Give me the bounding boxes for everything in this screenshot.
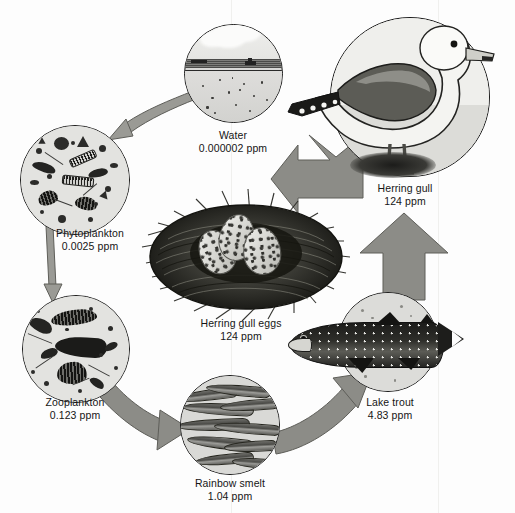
- label-zooplankton-value: 0.123 ppm: [10, 409, 140, 422]
- label-zooplankton: Zooplankton 0.123 ppm: [10, 396, 140, 421]
- arrow-lake-trout-to-herring-gull: [360, 213, 448, 300]
- phytoplankton-circle-icon: [20, 125, 130, 235]
- label-water-value: 0.000002 ppm: [168, 142, 298, 155]
- label-zooplankton-name: Zooplankton: [10, 396, 140, 409]
- rainbow-smelt-circle-icon: [180, 375, 280, 475]
- label-rainbow-smelt: Rainbow smelt 1.04 ppm: [165, 477, 295, 502]
- label-lake-trout: Lake trout 4.83 ppm: [330, 396, 450, 421]
- gull-rock-icon: [350, 152, 436, 178]
- label-herring-gull-eggs-value: 124 ppm: [176, 330, 306, 343]
- label-rainbow-smelt-value: 1.04 ppm: [165, 490, 295, 503]
- label-lake-trout-name: Lake trout: [330, 396, 450, 409]
- label-herring-gull-value: 124 ppm: [345, 195, 465, 208]
- label-herring-gull-eggs: Herring gull eggs 124 ppm: [176, 317, 306, 342]
- label-herring-gull: Herring gull 124 ppm: [345, 182, 465, 207]
- label-herring-gull-eggs-name: Herring gull eggs: [176, 317, 306, 330]
- label-water: Water 0.000002 ppm: [168, 129, 298, 154]
- label-rainbow-smelt-name: Rainbow smelt: [165, 477, 295, 490]
- label-herring-gull-name: Herring gull: [345, 182, 465, 195]
- lake-water-circle-icon: [184, 24, 283, 123]
- label-lake-trout-value: 4.83 ppm: [330, 409, 450, 422]
- biomagnification-diagram: Water 0.000002 ppm: [0, 0, 515, 513]
- zooplankton-circle-icon: [22, 295, 130, 403]
- label-water-name: Water: [168, 129, 298, 142]
